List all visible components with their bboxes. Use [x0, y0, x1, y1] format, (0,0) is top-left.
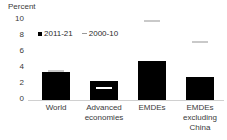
x-axis-label-emdes-ex-china-line1: EMDEs: [172, 103, 227, 113]
y-axis-tick-2: 2: [8, 79, 24, 87]
bar-chart: Percent 10 8 6 4 2 0 2011-21 2000-10: [0, 0, 227, 140]
x-axis-label-emdes-ex-china-line2: excluding: [172, 113, 227, 123]
bar-emdes-excluding-china-2011-21[interactable]: [186, 77, 214, 100]
y-axis-tick-4: 4: [8, 63, 24, 71]
plot-area: [28, 19, 223, 100]
bar-emdes-2011-21[interactable]: [138, 61, 166, 100]
bar-advanced-economies-2011-21[interactable]: [90, 81, 118, 100]
y-axis-tick-8: 8: [8, 31, 24, 39]
x-axis-label-emdes-ex-china-line3: China: [172, 123, 227, 133]
y-axis-tick-0: 0: [8, 95, 24, 103]
x-axis-labels: World Advanced economies EMDEs EMDEs exc…: [28, 103, 223, 140]
bar-world-2011-21[interactable]: [42, 72, 70, 100]
marker-advanced-economies-2000-10[interactable]: [96, 87, 112, 89]
y-axis-tick-10: 10: [8, 15, 24, 23]
y-axis-title: Percent: [8, 2, 36, 11]
marker-emdes-excluding-china-2000-10[interactable]: [192, 41, 208, 43]
marker-world-2000-10[interactable]: [48, 70, 64, 72]
marker-emdes-2000-10[interactable]: [144, 20, 160, 22]
x-axis-baseline: [28, 100, 224, 101]
y-axis-tick-6: 6: [8, 47, 24, 55]
x-axis-label-advanced-line2: economies: [76, 113, 132, 123]
x-axis-label-emdes-excluding-china: EMDEs excluding China: [172, 103, 227, 133]
